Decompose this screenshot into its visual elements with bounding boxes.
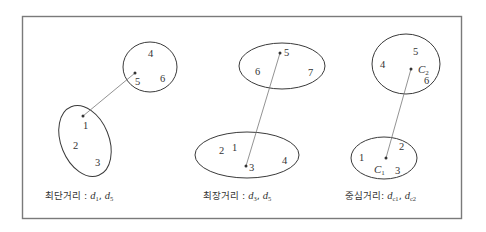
caption-shortest-distance: 최단거리 : d1, d5: [45, 190, 113, 202]
point-label: 3: [249, 162, 254, 173]
distance-link: [83, 73, 135, 116]
point-label: 2: [399, 141, 404, 152]
point-label: 1: [359, 152, 364, 163]
point-label: 4: [380, 59, 386, 70]
point-label: 4: [148, 48, 154, 59]
caption-sub: 5: [268, 195, 271, 202]
point-label: 6: [160, 73, 165, 84]
panel-longest-distance: 5 6 7 1 2 3 4 최장거리 : d3, d5: [195, 43, 325, 202]
caption-separator: :: [81, 190, 90, 201]
link-endpoint-b: [82, 115, 85, 118]
caption-centroid-distance: 중심거리: dc1, dc2: [345, 190, 416, 202]
point-label: 5: [413, 46, 418, 57]
cluster-distance-diagram: 4 5 6 1 2 3 최단거리 : d1, d5 5 6 7 1 2 3 4 …: [0, 0, 486, 232]
panel-centroid-distance: 4 5 6 C2 1 2 3 C1 중심거리: dc1, dc2: [345, 34, 440, 202]
outer-frame: [23, 17, 462, 219]
link-endpoint-a: [279, 52, 282, 55]
panel-shortest-distance: 4 5 6 1 2 3 최단거리 : d1, d5: [45, 42, 177, 202]
point-label: 5: [284, 47, 289, 58]
caption-label: 중심거리: [345, 190, 381, 201]
caption-sub: 5: [110, 195, 113, 202]
caption-longest-distance: 최장거리 : d3, d5: [203, 190, 271, 202]
point-label: 3: [95, 157, 100, 168]
point-label: 7: [308, 67, 313, 78]
point-label: 3: [395, 165, 400, 176]
point-label: 2: [73, 140, 78, 151]
caption-label: 최단거리: [45, 190, 81, 201]
point-label: 4: [282, 155, 288, 166]
centroid-c2-label: C2: [418, 63, 429, 77]
centroid-c1-dot: [385, 157, 388, 160]
link-endpoint-a: [134, 72, 137, 75]
point-label: 5: [135, 76, 140, 87]
point-label: 1: [83, 120, 88, 131]
point-label: 6: [255, 66, 260, 77]
point-label: 1: [232, 142, 237, 153]
centroid-c2-dot: [410, 68, 413, 71]
cluster-a: [239, 43, 325, 89]
distance-link: [246, 53, 280, 166]
cluster-b: [49, 98, 121, 185]
centroid-c1-label: C1: [374, 163, 385, 177]
link-endpoint-b: [245, 165, 248, 168]
caption-separator: :: [239, 190, 248, 201]
caption-sub: c2: [410, 195, 416, 202]
point-label: 2: [219, 145, 224, 156]
caption-label: 최장거리: [203, 190, 239, 201]
